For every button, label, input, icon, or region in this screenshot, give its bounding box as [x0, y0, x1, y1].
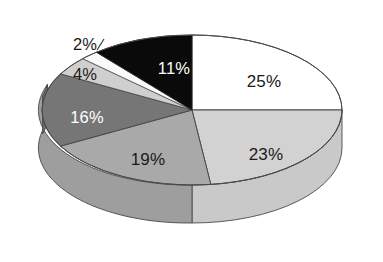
- leader-line-2: [97, 39, 104, 50]
- pie-slice-25: [192, 35, 342, 110]
- pie-leader-lines: [97, 39, 104, 50]
- pie-chart-canvas: 25% 23% 19% 16% 11% 4% 2%: [0, 0, 383, 262]
- pie-chart-svg: [0, 0, 383, 262]
- pie-top-face: [42, 35, 342, 185]
